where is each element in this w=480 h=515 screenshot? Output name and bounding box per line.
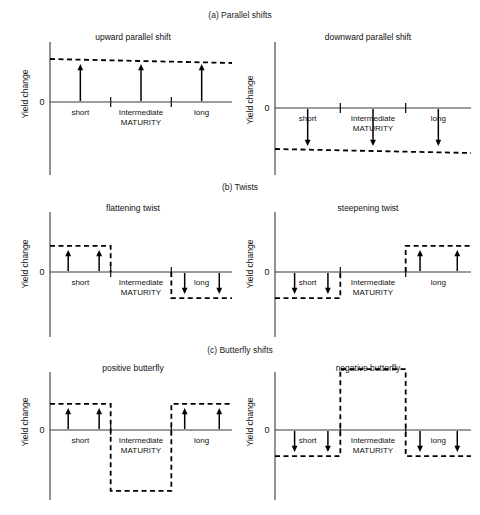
x-axis-label-maturity-steepening-twist: MATURITY	[353, 288, 394, 297]
zero-tick-label-upward-parallel-shift: 0	[39, 97, 44, 107]
panel-title-steepening-twist: steepening twist	[338, 203, 400, 213]
category-label-short-steepening-twist: short	[299, 278, 318, 287]
section-heading-twists: (b) Twists	[222, 182, 258, 192]
panel-title-upward-parallel-shift: upward parallel shift	[95, 32, 171, 42]
category-label-intermediate-steepening-twist: Intermediate	[351, 278, 396, 287]
category-label-intermediate-upward-parallel-shift: Intermediate	[119, 108, 164, 117]
y-axis-label-steepening-twist: Yield change	[245, 239, 255, 288]
category-label-short-positive-butterfly: short	[71, 436, 90, 445]
section-heading-parallel-shifts: (a) Parallel shifts	[208, 10, 271, 20]
category-label-long-upward-parallel-shift: long	[194, 108, 209, 117]
category-label-intermediate-flattening-twist: Intermediate	[119, 278, 164, 287]
x-axis-label-maturity-upward-parallel-shift: MATURITY	[121, 118, 162, 127]
category-label-short-negative-butterfly: short	[299, 436, 318, 445]
zero-tick-label-flattening-twist: 0	[39, 267, 44, 277]
section-heading-butterfly-shifts: (c) Butterfly shifts	[207, 345, 273, 355]
category-label-long-steepening-twist: long	[431, 278, 446, 287]
panel-title-flattening-twist: flattening twist	[106, 203, 160, 213]
category-label-short-upward-parallel-shift: short	[71, 108, 90, 117]
yield-curve-shifts-figure: (a) Parallel shifts (b) Twists (c) Butte…	[0, 0, 480, 515]
category-label-intermediate-positive-butterfly: Intermediate	[119, 436, 164, 445]
category-label-long-positive-butterfly: long	[194, 436, 209, 445]
x-axis-label-maturity-flattening-twist: MATURITY	[121, 288, 162, 297]
y-axis-label-negative-butterfly: Yield change	[245, 397, 255, 446]
zero-tick-label-steepening-twist: 0	[264, 267, 269, 277]
zero-tick-label-positive-butterfly: 0	[39, 425, 44, 435]
zero-tick-label-negative-butterfly: 0	[264, 425, 269, 435]
panel-title-downward-parallel-shift: downward parallel shift	[325, 32, 412, 42]
x-axis-label-maturity-positive-butterfly: MATURITY	[121, 446, 162, 455]
panel-title-negative-butterfly: negative butterfly	[336, 363, 401, 373]
category-label-short-flattening-twist: short	[71, 278, 90, 287]
category-label-intermediate-negative-butterfly: Intermediate	[351, 436, 396, 445]
y-axis-label-downward-parallel-shift: Yield change	[245, 75, 255, 124]
panel-title-positive-butterfly: positive butterfly	[102, 363, 164, 373]
y-axis-label-positive-butterfly: Yield change	[20, 397, 30, 446]
x-axis-label-maturity-negative-butterfly: MATURITY	[353, 446, 394, 455]
zero-tick-label-downward-parallel-shift: 0	[264, 103, 269, 113]
y-axis-label-upward-parallel-shift: Yield change	[20, 69, 30, 118]
category-label-long-negative-butterfly: long	[431, 436, 446, 445]
y-axis-label-flattening-twist: Yield change	[20, 239, 30, 288]
category-label-long-flattening-twist: long	[194, 278, 209, 287]
